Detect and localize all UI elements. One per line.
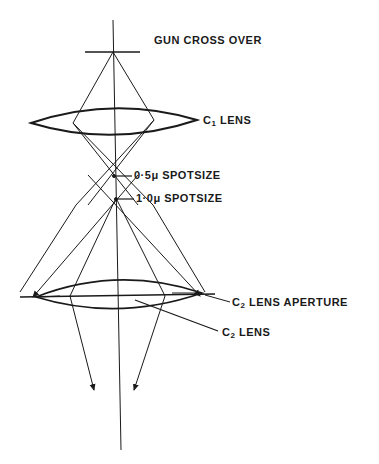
label-gun-crossover: GUN CROSS OVER bbox=[154, 34, 262, 46]
c1-rest: LENS bbox=[216, 114, 251, 126]
c2-subscript: 2 bbox=[230, 331, 235, 340]
label-spot-05: 0·5μ SPOTSIZE bbox=[134, 169, 221, 181]
label-spot-10: 1·0μ SPOTSIZE bbox=[136, 192, 223, 204]
c2ap-subscript: 2 bbox=[240, 301, 245, 310]
c2-rest: LENS bbox=[235, 326, 270, 338]
label-c2-lens-aperture: C2 LENS APERTURE bbox=[232, 296, 348, 308]
c1-subscript: 1 bbox=[211, 119, 216, 128]
c2ap-rest: LENS APERTURE bbox=[245, 296, 348, 308]
ray-diagram bbox=[0, 0, 379, 464]
optical-axis bbox=[113, 20, 121, 450]
c2-lens-leader bbox=[135, 300, 218, 331]
c1-lens bbox=[31, 108, 197, 135]
c2-aperture-leader bbox=[205, 295, 230, 302]
label-c2-lens: C2 LENS bbox=[222, 326, 270, 338]
label-c1-lens: C1 LENS bbox=[203, 114, 251, 126]
